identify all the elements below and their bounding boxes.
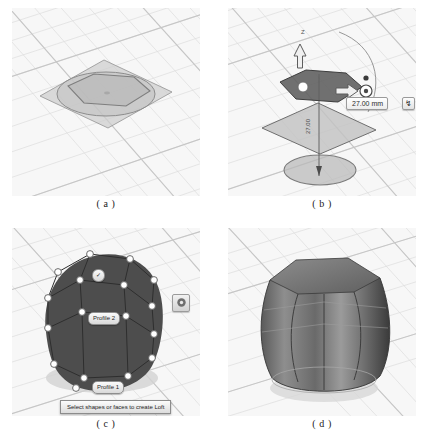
caption-b: ( b ) xyxy=(228,198,416,209)
profile-2-label[interactable]: Profile 2 xyxy=(88,312,120,325)
gear-glyph xyxy=(176,297,187,308)
move-origin-handle-b[interactable] xyxy=(298,82,308,92)
viewport-lofted-solid[interactable] xyxy=(228,228,416,416)
caption-d: ( d ) xyxy=(228,418,416,429)
loft-hint-tooltip: Select shapes or faces to create Loft xyxy=(60,400,171,414)
caption-c: ( c ) xyxy=(12,418,200,429)
gear-icon[interactable] xyxy=(172,294,190,312)
viewport-loft-selection[interactable]: ✓ Profile 2 Profile 1 Select shapes or f… xyxy=(12,228,200,416)
profile-1-label[interactable]: Profile 1 xyxy=(92,381,124,394)
lock-icon[interactable]: ↯ xyxy=(402,97,415,110)
figure-loft-workflow: ( a ) 2 xyxy=(0,0,427,443)
distance-input[interactable]: 27.00 mm xyxy=(346,97,388,110)
sketch-origin-a xyxy=(104,92,110,95)
offset-axis-dimension-b: 27.00 xyxy=(305,118,311,134)
arc-node-top-b[interactable] xyxy=(363,75,368,80)
viewport-sketch-profile[interactable] xyxy=(12,8,200,196)
caption-a: ( a ) xyxy=(12,198,200,209)
drag-handle-dot-b xyxy=(364,89,368,93)
panel-d-scene xyxy=(228,228,416,416)
z-axis-label-b: Z xyxy=(301,29,305,35)
panel-a-scene xyxy=(12,8,200,196)
profile-check-badge[interactable]: ✓ xyxy=(92,269,105,282)
viewport-move-offset[interactable]: 27.00 Z 27.00 mm ↯ xyxy=(228,8,416,196)
